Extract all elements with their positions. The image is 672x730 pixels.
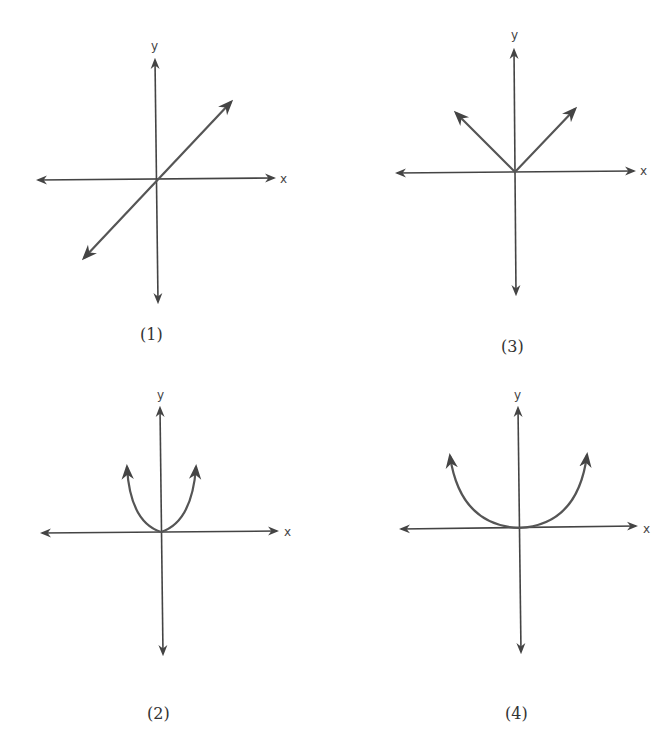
y-axis bbox=[518, 408, 521, 652]
x-axis-label: x bbox=[284, 525, 291, 539]
graph-caption: (3) bbox=[501, 337, 524, 356]
graph-3: x y (3) bbox=[397, 28, 647, 356]
graph-1: x y (1) bbox=[38, 39, 287, 344]
graphs-figure: x y (1) x y (3) x y (2) x y (4) bbox=[0, 0, 672, 730]
y-axis-label: y bbox=[514, 388, 521, 402]
x-axis-label: x bbox=[643, 522, 650, 536]
graph-4: x y (4) bbox=[401, 388, 650, 723]
graph-caption: (1) bbox=[140, 325, 163, 344]
graph-caption: (2) bbox=[147, 704, 170, 723]
graph-2: x y (2) bbox=[42, 388, 291, 723]
graph-caption: (4) bbox=[505, 704, 528, 723]
x-axis-label: x bbox=[640, 164, 647, 178]
y-axis-label: y bbox=[151, 39, 158, 53]
y-axis-label: y bbox=[511, 28, 518, 42]
y-axis-label: y bbox=[157, 388, 164, 402]
x-axis-label: x bbox=[280, 172, 287, 186]
